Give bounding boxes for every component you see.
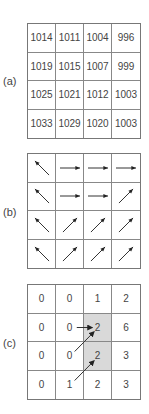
flow-direction-cell	[84, 154, 112, 183]
arrow-nw-icon	[30, 156, 54, 180]
elevation-cell: 1025	[28, 81, 56, 110]
accumulation-cell: 0	[28, 285, 56, 314]
elevation-cell: 1003	[112, 81, 140, 110]
arrow-ne-icon	[86, 213, 110, 237]
accumulation-cell: 0	[56, 285, 84, 314]
elevation-cell: 1004	[84, 24, 112, 53]
flow-accumulation-grid: 0 0 1 2 0 0 2 6 0 0 2 3 0 1 2 3	[27, 284, 141, 400]
flow-direction-cell	[84, 240, 112, 269]
flow-direction-cell	[112, 240, 140, 269]
flow-direction-cell	[112, 154, 140, 183]
panel-c-label: (c)	[3, 337, 16, 349]
flow-direction-grid	[27, 153, 141, 269]
flow-direction-cell	[28, 211, 56, 240]
arrow-nw-icon	[30, 242, 54, 266]
arrow-e-icon	[86, 184, 110, 208]
arrow-ne-icon	[58, 213, 82, 237]
elevation-grid: 1014 1011 1004 996 1019 1015 1007 999 10…	[27, 23, 141, 139]
flow-direction-cell	[56, 183, 84, 212]
accumulation-cell: 0	[28, 342, 56, 371]
elevation-cell: 1019	[28, 53, 56, 82]
flow-direction-cell	[56, 240, 84, 269]
flow-direction-cell	[56, 211, 84, 240]
arrow-ne-icon	[86, 242, 110, 266]
accumulation-cell: 0	[28, 314, 56, 343]
accumulation-cell: 0	[56, 314, 84, 343]
accumulation-cell-shaded: 2	[84, 342, 112, 371]
accumulation-cell-shaded: 2	[84, 314, 112, 343]
arrow-ne-icon	[58, 242, 82, 266]
elevation-cell: 1014	[28, 24, 56, 53]
elevation-cell: 1011	[56, 24, 84, 53]
accumulation-cell: 0	[56, 342, 84, 371]
accumulation-cell: 2	[112, 285, 140, 314]
elevation-cell: 1029	[56, 110, 84, 139]
flow-direction-cell	[112, 211, 140, 240]
arrow-e-icon	[58, 156, 82, 180]
elevation-cell: 1007	[84, 53, 112, 82]
elevation-cell: 1003	[112, 110, 140, 139]
elevation-cell: 996	[112, 24, 140, 53]
arrow-ne-icon	[114, 242, 138, 266]
flow-direction-cell	[28, 240, 56, 269]
arrow-nw-icon	[30, 213, 54, 237]
flow-direction-cell	[28, 183, 56, 212]
accumulation-cell: 2	[84, 371, 112, 400]
accumulation-cell: 0	[28, 371, 56, 400]
arrow-ne-icon	[114, 213, 138, 237]
elevation-cell: 1033	[28, 110, 56, 139]
elevation-cell: 999	[112, 53, 140, 82]
flow-direction-cell	[56, 154, 84, 183]
arrow-e-icon	[58, 184, 82, 208]
arrow-nw-icon	[30, 184, 54, 208]
accumulation-cell: 1	[84, 285, 112, 314]
accumulation-cell: 6	[112, 314, 140, 343]
accumulation-cell: 3	[112, 342, 140, 371]
arrow-e-icon	[86, 156, 110, 180]
elevation-cell: 1012	[84, 81, 112, 110]
accumulation-cell: 1	[56, 371, 84, 400]
accumulation-cell: 3	[112, 371, 140, 400]
panel-b-label: (b)	[3, 206, 16, 218]
flow-direction-cell	[84, 211, 112, 240]
elevation-cell: 1015	[56, 53, 84, 82]
flow-direction-cell	[28, 154, 56, 183]
arrow-ne-icon	[114, 184, 138, 208]
flow-direction-cell	[84, 183, 112, 212]
flow-direction-cell	[112, 183, 140, 212]
panel-a-label: (a)	[3, 75, 16, 87]
elevation-cell: 1020	[84, 110, 112, 139]
elevation-cell: 1021	[56, 81, 84, 110]
arrow-e-icon	[114, 156, 138, 180]
